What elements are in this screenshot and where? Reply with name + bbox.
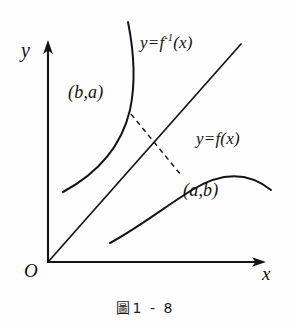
- curve-inverse-function: [63, 22, 134, 192]
- point-label-b-a: (b,a): [68, 83, 104, 101]
- figure-caption-number: 1 - 8: [133, 300, 175, 316]
- inverse-function-label: y=f-1(x): [140, 33, 193, 51]
- dashed-connector-line: [131, 114, 181, 175]
- inverse-function-label-tail: (x): [173, 33, 192, 52]
- function-label: y=f(x): [196, 130, 240, 147]
- identity-line-y-equals-x: [48, 44, 241, 262]
- figure-caption: 圖1 - 8: [0, 297, 290, 317]
- inverse-function-label-base: y=f: [140, 33, 164, 52]
- point-label-a-b: (a,b): [183, 181, 219, 199]
- y-axis-label: y: [21, 40, 30, 60]
- x-axis-label: x: [262, 264, 271, 283]
- origin-label: O: [24, 261, 38, 280]
- figure-caption-symbol: 圖: [116, 300, 133, 316]
- inverse-function-label-exponent: -1: [164, 32, 173, 43]
- figure-container: y x O y=f-1(x) y=f(x) (b,a) (a,b) 圖1 - 8: [0, 0, 290, 327]
